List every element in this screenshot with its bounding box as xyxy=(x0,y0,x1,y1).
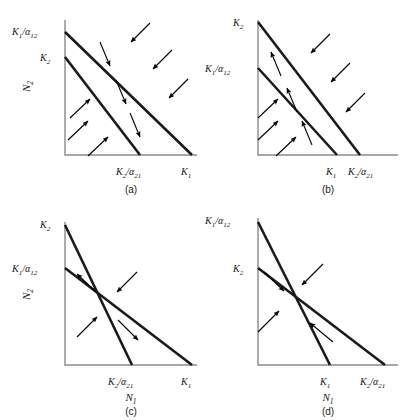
panel-b-caption: (b) xyxy=(322,184,334,195)
panel-a-yaxis-title: N2 xyxy=(20,81,35,93)
panel-b-xlabel-left: K1 xyxy=(325,166,336,180)
panel-c-axes xyxy=(65,222,197,365)
panel-a-ylabel-top: K1/α12 xyxy=(11,26,38,40)
panel-a-axes xyxy=(65,20,197,155)
panel-d-caption: (d) xyxy=(322,406,334,417)
panel-c-ylabel-top: K2 xyxy=(39,219,51,233)
panel-d-isocline-species1 xyxy=(258,222,330,365)
panel-d-xaxis-title: N1 xyxy=(321,391,333,406)
panel-d-xlabel-right: K2/α21 xyxy=(359,376,385,390)
panel-a-xlabel-left: K2/α21 xyxy=(115,166,141,180)
panel-d-axes xyxy=(258,218,398,365)
panel-b-ylabel-low: K1/α12 xyxy=(204,63,231,77)
competition-isocline-figure: K1/α12 K2 K2/α21 K1 N2 (a) K2 K1/α12 K1 … xyxy=(0,0,404,420)
panel-c-isocline-species1 xyxy=(65,268,192,365)
panel-a-caption: (a) xyxy=(125,184,137,195)
panel-a-arrows xyxy=(68,23,188,156)
panel-c-yaxis-title: N2 xyxy=(20,289,35,301)
panel-c-ylabel-low: K1/α12 xyxy=(11,263,38,277)
panel-c-xlabel-right: K1 xyxy=(180,376,191,390)
panel-a-ylabel-low: K2 xyxy=(39,52,51,66)
panel-b-axes xyxy=(258,20,398,155)
panel-c: K2 K1/α12 K2/α21 K1 N2 N1 (c) xyxy=(11,219,197,417)
panel-c-caption: (c) xyxy=(125,406,137,417)
panel-c-xaxis-title: N1 xyxy=(124,391,136,406)
panel-d: K1/α12 K2 K1 K2/α21 N1 (d) xyxy=(204,215,398,417)
panel-d-xlabel-left: K1 xyxy=(319,376,330,390)
panel-c-arrows xyxy=(77,272,138,340)
panel-d-ylabel-top: K1/α12 xyxy=(204,215,231,229)
panel-a-xlabel-right: K1 xyxy=(180,166,191,180)
panel-b: K2 K1/α12 K1 K2/α21 (b) xyxy=(204,17,398,195)
panel-b-ylabel-top: K2 xyxy=(232,17,244,31)
figure-container: K1/α12 K2 K2/α21 K1 N2 (a) K2 K1/α12 K1 … xyxy=(0,0,404,420)
panel-d-ylabel-low: K2 xyxy=(232,263,244,277)
panel-b-xlabel-right: K2/α21 xyxy=(347,166,373,180)
panel-b-isocline-species2 xyxy=(258,22,360,155)
panel-b-arrows xyxy=(258,34,365,156)
panel-a: K1/α12 K2 K2/α21 K1 N2 (a) xyxy=(11,20,197,195)
panel-c-xlabel-left: K2/α21 xyxy=(107,376,133,390)
panel-a-isocline-species2 xyxy=(65,57,140,155)
